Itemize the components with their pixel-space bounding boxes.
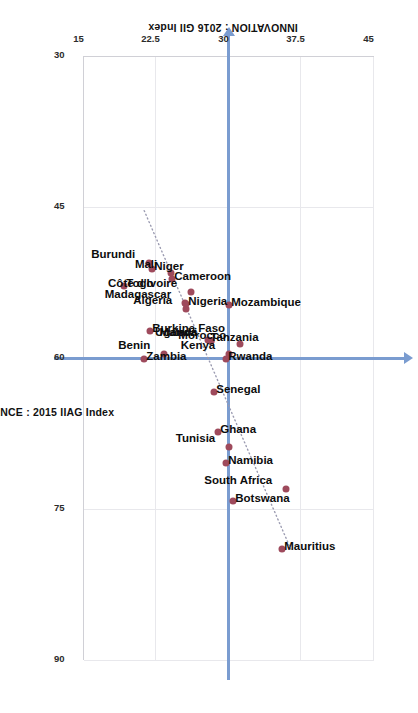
plot-area: MauritiusSouth AfricaBotswanaNamibiaTuni…: [0, 0, 418, 713]
point-label: Mauritius: [284, 541, 335, 553]
point-label: Namibia: [228, 454, 273, 466]
point-label: Rwanda: [228, 351, 272, 363]
point-label: Burkina Faso: [152, 322, 225, 334]
x-tick-label: 45: [54, 200, 65, 211]
x-tick-label: 75: [54, 502, 65, 513]
point-label: Niger: [154, 261, 183, 273]
point-label: Togo: [126, 277, 153, 289]
y-tick-label: 37.5: [287, 33, 306, 44]
x-tick-label: 90: [54, 653, 65, 664]
point-label: Botswana: [235, 492, 289, 504]
point-label: South Africa: [204, 474, 272, 486]
x-tick-label: 60: [54, 351, 65, 362]
point-label: Nigeria: [189, 295, 228, 307]
y-tick-label: 22.5: [142, 33, 161, 44]
x-tick-label: 30: [54, 49, 65, 60]
point-label: Tunisia: [176, 432, 215, 444]
data-point[interactable]: [181, 299, 188, 306]
point-label: Ghana: [221, 424, 257, 436]
point-label: Cameroon: [174, 271, 231, 283]
point-label: Burundi: [91, 249, 135, 261]
point-label: Mozambique: [231, 296, 301, 308]
point-label: Senegal: [216, 384, 260, 396]
data-point[interactable]: [226, 443, 233, 450]
y-tick-label: 15: [73, 33, 84, 44]
x-axis-title: GOVERNANCE : 2015 IIAG Index: [0, 406, 114, 418]
y-tick-label: 45: [363, 33, 374, 44]
point-label: Madagascar: [104, 288, 170, 300]
chart-figure: MauritiusSouth AfricaBotswanaNamibiaTuni…: [0, 0, 418, 713]
y-tick-label: 30: [218, 33, 229, 44]
point-label: Zambia: [146, 351, 186, 363]
y-axis-title: INNOVATION : 2016 GII Index: [148, 22, 298, 34]
